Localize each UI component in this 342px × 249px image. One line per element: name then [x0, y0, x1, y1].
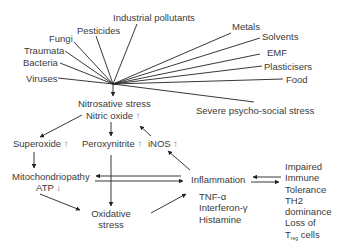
- immune-line: Tolerance: [285, 184, 331, 195]
- source-metals: Metals: [232, 21, 260, 32]
- node-atp: ATP ↓: [36, 182, 61, 193]
- node-inflammation: Inflammation: [191, 174, 245, 185]
- node-nitrosative-stress: Nitrosative stress: [78, 98, 151, 109]
- up-arrow-icon: ↑: [136, 110, 141, 121]
- node-superoxide: Superoxide ↑: [13, 138, 68, 149]
- mediator-tnf-alpha: TNF-α: [199, 191, 248, 202]
- source-solvents: Solvents: [262, 31, 298, 42]
- node-inos: iNOS ↑: [148, 138, 178, 149]
- source-food: Food: [286, 74, 308, 85]
- up-arrow-icon: ↑: [173, 138, 178, 149]
- mediator-interferon-gamma: Interferon-γ: [199, 202, 248, 213]
- source-emf: EMF: [267, 47, 287, 58]
- node-mitochondriopathy: Mitochondriopathy: [12, 171, 90, 182]
- immune-line: TH2: [285, 195, 331, 206]
- node-nitric-oxide: Nitric oxide ↑: [86, 110, 140, 121]
- inflammation-mediators: TNF-α Interferon-γ Histamine: [199, 191, 248, 225]
- source-pesticides: Pesticides: [77, 25, 120, 36]
- down-arrow-icon: ↓: [56, 182, 61, 193]
- mediator-histamine: Histamine: [199, 214, 248, 225]
- atp-label: ATP: [36, 182, 54, 193]
- source-industrial-pollutants: Industrial pollutants: [113, 12, 195, 23]
- node-peroxynitrite: Peroxynitrite ↑: [82, 138, 142, 149]
- cells-label: cells: [298, 229, 320, 240]
- source-psycho-social-stress: Severe psycho-social stress: [196, 105, 314, 116]
- node-oxidative-stress: Oxidative stress: [88, 208, 134, 231]
- immune-line: Loss of: [285, 217, 331, 228]
- peroxynitrite-label: Peroxynitrite: [82, 138, 135, 149]
- immune-line: dominance: [285, 206, 331, 217]
- inos-label: iNOS: [148, 138, 171, 149]
- immune-line: Immune: [285, 172, 331, 183]
- stress-label: stress: [88, 219, 134, 230]
- source-bacteria: Bacteria: [23, 57, 58, 68]
- superoxide-label: Superoxide: [13, 138, 61, 149]
- reg-subscript: reg: [291, 235, 298, 241]
- source-traumata: Traumata: [24, 45, 64, 56]
- nitric-oxide-label: Nitric oxide: [86, 110, 133, 121]
- oxidative-label: Oxidative: [88, 208, 134, 219]
- up-arrow-icon: ↑: [64, 138, 69, 149]
- immune-line: Impaired: [285, 161, 331, 172]
- treg-line: Treg cells: [285, 229, 331, 244]
- up-arrow-icon: ↑: [137, 138, 142, 149]
- source-plasticisers: Plasticisers: [264, 61, 312, 72]
- source-fungi: Fungi: [49, 33, 73, 44]
- source-viruses: Viruses: [26, 73, 58, 84]
- node-impaired-immune-tolerance: Impaired Immune Tolerance TH2 dominance …: [285, 161, 331, 244]
